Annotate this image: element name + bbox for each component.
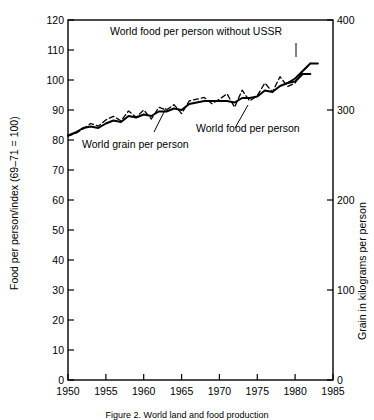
x-tick-label: 1970 [208,385,232,397]
left-tick-label: 90 [52,104,64,116]
left-axis-title: Food per person/index (69–71 = 100) [8,116,20,290]
plot-frame [68,20,333,380]
right-axis-tick-labels: 0 100 200 300 400 [337,14,355,386]
figure-caption: Figure 2. World land and food production [106,410,269,420]
left-tick-label: 10 [52,344,64,356]
left-tick-label: 20 [52,314,64,326]
annotation-world-grain-per-person: World grain per person [82,138,189,150]
x-tick-label: 1980 [283,385,307,397]
x-tick-label: 1975 [246,385,270,397]
annotations: World food per person without USSR World… [82,25,300,150]
x-axis-ticks [68,374,333,380]
right-axis-title-text: Grain in kilograms per person [356,202,368,340]
left-tick-label: 110 [47,44,64,56]
x-tick-label: 1985 [321,385,345,397]
left-tick-label: 100 [46,74,64,86]
right-tick-label: 300 [337,104,355,116]
left-axis-title-text: Food per person/index (69–71 = 100) [8,116,20,290]
right-axis-ticks [327,20,333,380]
left-tick-label: 70 [52,164,64,176]
left-tick-label: 30 [52,284,64,296]
right-axis-title: Grain in kilograms per person [356,202,368,340]
left-tick-label: 50 [52,224,64,236]
x-tick-label: 1960 [132,385,156,397]
left-tick-label: 40 [52,254,64,266]
x-tick-label: 1950 [56,385,80,397]
right-tick-label: 100 [337,284,355,296]
chart-svg: Food per person/index (69–71 = 100) Grai… [0,0,374,420]
annotation-world-food-without-ussr: World food per person without USSR [110,25,282,37]
left-tick-label: 80 [52,134,64,146]
annotation-leaders [154,43,296,132]
left-axis-tick-labels: 0 10 20 30 40 50 60 70 80 90 100 110 120 [46,14,64,386]
figure-container: Food per person/index (69–71 = 100) Grai… [0,0,374,420]
right-tick-label: 400 [337,14,355,26]
right-tick-label: 200 [337,194,355,206]
x-axis-tick-labels: 1950 1955 1960 1965 1970 1975 1980 1985 [56,385,345,397]
x-tick-label: 1965 [170,385,194,397]
x-tick-label: 1955 [94,385,118,397]
left-axis-ticks [68,20,74,380]
left-tick-label: 120 [46,14,64,26]
left-tick-label: 60 [52,194,64,206]
annotation-world-food-per-person: World food per person [196,122,300,134]
